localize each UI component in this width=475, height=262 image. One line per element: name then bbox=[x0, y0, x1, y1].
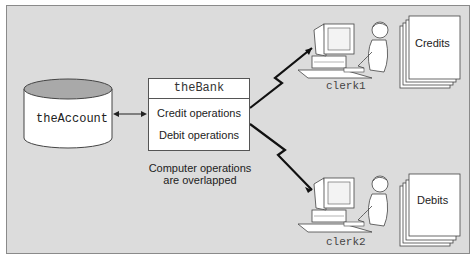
bank-box: theBank Credit operations Debit operatio… bbox=[148, 78, 250, 151]
caption-line-2: are overlapped bbox=[140, 174, 260, 186]
caption: Computer operations are overlapped bbox=[140, 162, 260, 186]
caption-line-1: Computer operations bbox=[140, 162, 260, 174]
paper-stack-icon bbox=[400, 16, 460, 88]
bank-debit-operations: Debit operations bbox=[149, 129, 249, 142]
clerk1-label: clerk1 bbox=[326, 80, 366, 92]
lightning-link-icon bbox=[250, 48, 312, 108]
clerk2-label: clerk2 bbox=[326, 236, 366, 248]
paper-stack-icon bbox=[400, 174, 460, 246]
bank-credit-operations: Credit operations bbox=[149, 107, 249, 120]
clerk-at-computer-icon bbox=[298, 176, 388, 232]
account-label: theAccount bbox=[36, 112, 108, 126]
debits-label: Debits bbox=[417, 194, 448, 206]
clerk-at-computer-icon bbox=[298, 22, 388, 78]
bank-title: theBank bbox=[149, 79, 249, 99]
credits-label: Credits bbox=[415, 37, 450, 49]
bidirectional-arrow-icon bbox=[113, 111, 147, 117]
